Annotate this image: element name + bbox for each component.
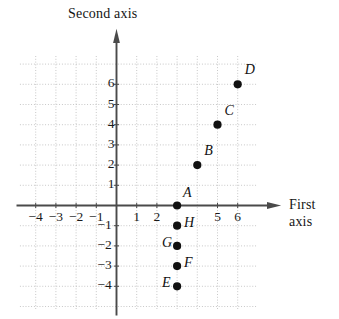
point-label-b: B [204,143,213,159]
first-axis-title-line1: First [289,196,316,213]
point-label-h: H [184,215,194,231]
first-axis-title: First axis [289,196,316,230]
x-tick-label: 5 [207,209,229,225]
y-tick-label: −2 [98,237,118,253]
point-label-a: A [183,185,192,201]
y-tick-label: −1 [98,217,118,233]
x-tick-label: −2 [65,209,87,225]
second-axis-title: Second axis [68,6,137,22]
x-tick-label: −4 [25,209,47,225]
y-tick-label: 3 [95,136,115,152]
first-axis-title-line2: axis [289,213,316,230]
point-label-g: G [162,235,172,251]
x-tick-label: 2 [146,209,168,225]
point-label-f: F [184,255,193,271]
y-tick-label: −4 [98,277,118,293]
y-tick-label: 1 [95,176,115,192]
x-tick-label: 6 [227,209,249,225]
plot-canvas [0,0,339,319]
x-tick-label: −3 [45,209,67,225]
point-label-e: E [162,275,171,291]
gridlines [20,56,256,310]
y-tick-label: 5 [95,96,115,112]
y-tick-label: −3 [98,257,118,273]
x-tick-label: 1 [126,209,148,225]
y-tick-label: 6 [95,75,115,91]
y-tick-label: 4 [95,116,115,132]
point-label-d: D [245,62,255,78]
coordinate-plane-figure: Second axis First axis −4−3−2−1125665432… [0,0,339,319]
point-label-c: C [225,103,234,119]
y-tick-label: 2 [95,156,115,172]
axis-lines [17,29,282,316]
